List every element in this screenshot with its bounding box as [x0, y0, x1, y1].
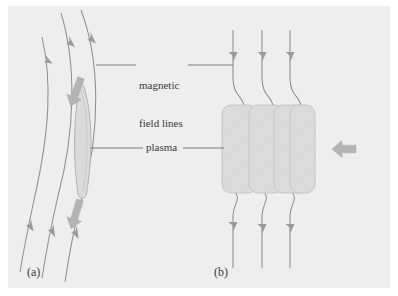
magnetic-field-lines-label: magnetic field lines — [139, 54, 183, 154]
figure-container: magnetic field lines plasma (a) (b) — [0, 0, 398, 296]
panel-b-field-line — [262, 30, 273, 106]
magnetic-field-lines-label-line2: field lines — [139, 117, 183, 130]
panel-b-field-arrowhead — [286, 52, 295, 62]
panel-b-field-arrowhead — [258, 224, 267, 234]
bulk-motion-arrow — [332, 141, 356, 158]
panel-b-field-arrowhead — [229, 52, 238, 62]
magnetic-field-lines-label-line1: magnetic — [139, 79, 183, 92]
panel-b-field-arrowhead — [286, 224, 295, 234]
panel-a-label: (a) — [27, 266, 40, 279]
panel-a-field-line — [42, 13, 72, 278]
diagram-svg — [0, 0, 398, 296]
panel-b-field-arrowhead — [229, 222, 238, 232]
panel-b-field-arrowhead — [258, 52, 267, 62]
panel-b-plasma — [222, 105, 315, 193]
panel-a-field-line — [20, 37, 48, 272]
plasma-block — [290, 105, 315, 193]
plasma-label: plasma — [146, 141, 177, 154]
panel-b-field-line — [233, 30, 244, 106]
panel-b-label: (b) — [214, 266, 228, 279]
panel-a-field-arrowhead — [26, 55, 53, 232]
panel-b-field-line — [290, 30, 301, 106]
